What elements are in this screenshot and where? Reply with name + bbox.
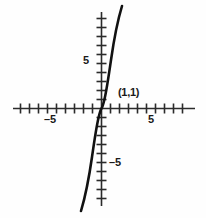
cubic-function-graph: –5 5 5 –5 (1,1)	[0, 0, 206, 218]
y-axis-label-positive-five: 5	[83, 55, 89, 66]
point-annotation-1-1: (1,1)	[118, 87, 139, 98]
x-axis-label-positive-five: 5	[148, 114, 154, 125]
y-axis-label-negative-five: –5	[109, 157, 121, 168]
graph-canvas	[0, 0, 206, 218]
x-axis-label-negative-five: –5	[44, 114, 56, 125]
